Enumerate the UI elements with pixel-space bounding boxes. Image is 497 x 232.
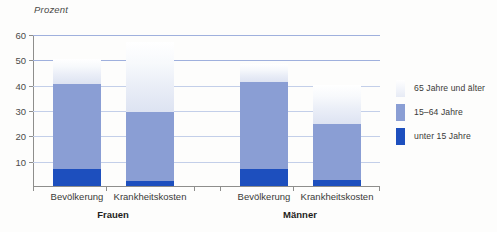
y-tick-label-40: 40 bbox=[15, 80, 26, 91]
x-tick-4 bbox=[293, 187, 294, 191]
tick-mark-20 bbox=[29, 136, 33, 137]
bar-segment-under15 bbox=[53, 169, 101, 186]
category-label-maenner-krankheitskosten: Krankheitskosten bbox=[301, 191, 374, 202]
tick-mark-30 bbox=[29, 111, 33, 112]
tick-mark-50 bbox=[29, 60, 33, 61]
legend-label-under15: unter 15 Jahre bbox=[414, 131, 471, 141]
bar-segment-15to64 bbox=[53, 84, 101, 169]
category-label-frauen-krankheitskosten: Krankheitskosten bbox=[114, 191, 187, 202]
y-tick-label-20: 20 bbox=[15, 131, 26, 142]
bar-frauen-bevoelkerung[interactable] bbox=[53, 59, 101, 186]
category-label-maenner-bevoelkerung: Bevölkerung bbox=[238, 191, 291, 202]
bar-segment-under15 bbox=[313, 180, 361, 186]
legend-swatch-under15-icon bbox=[396, 128, 405, 145]
bar-segment-under15 bbox=[240, 169, 288, 186]
bar-segment-65plus bbox=[126, 42, 174, 112]
plot-area: 60 50 40 30 20 10 bbox=[33, 35, 380, 187]
y-tick-label-60: 60 bbox=[15, 30, 26, 41]
legend-swatch-65plus-icon bbox=[396, 80, 405, 97]
gridline-60: 60 bbox=[33, 35, 380, 36]
bar-segment-65plus bbox=[313, 85, 361, 125]
bar-segment-65plus bbox=[240, 64, 288, 82]
legend-swatch-15to64-icon bbox=[396, 104, 405, 121]
group-label-frauen: Frauen bbox=[97, 209, 129, 220]
y-tick-label-30: 30 bbox=[15, 106, 26, 117]
legend-item-under15[interactable]: unter 15 Jahre bbox=[396, 124, 496, 148]
legend-label-65plus: 65 Jahre und älter bbox=[414, 83, 485, 93]
stacked-bar-chart: Prozent 60 50 40 30 20 10 bbox=[0, 0, 497, 232]
category-label-frauen-bevoelkerung: Bevölkerung bbox=[51, 191, 104, 202]
bar-segment-15to64 bbox=[313, 124, 361, 180]
bar-segment-65plus bbox=[53, 59, 101, 84]
legend-label-15to64: 15–64 Jahre bbox=[414, 107, 463, 117]
tick-mark-40 bbox=[29, 86, 33, 87]
bar-maenner-krankheitskosten[interactable] bbox=[313, 85, 361, 186]
x-tick-0 bbox=[33, 187, 34, 191]
legend-item-15to64[interactable]: 15–64 Jahre bbox=[396, 100, 496, 124]
group-label-maenner: Männer bbox=[283, 209, 317, 220]
bar-segment-under15 bbox=[126, 181, 174, 186]
x-tick-3 bbox=[220, 187, 221, 191]
bar-frauen-krankheitskosten[interactable] bbox=[126, 42, 174, 186]
bar-maenner-bevoelkerung[interactable] bbox=[240, 64, 288, 186]
chart-legend: 65 Jahre und älter 15–64 Jahre unter 15 … bbox=[396, 76, 496, 148]
tick-mark-10 bbox=[29, 162, 33, 163]
legend-item-65plus[interactable]: 65 Jahre und älter bbox=[396, 76, 496, 100]
y-tick-label-10: 10 bbox=[15, 156, 26, 167]
y-axis-title: Prozent bbox=[34, 4, 68, 15]
tick-mark-60 bbox=[29, 35, 33, 36]
x-tick-1 bbox=[106, 187, 107, 191]
y-tick-label-50: 50 bbox=[15, 55, 26, 66]
bar-segment-15to64 bbox=[126, 112, 174, 181]
bar-segment-15to64 bbox=[240, 82, 288, 169]
x-tick-2 bbox=[194, 187, 195, 191]
x-tick-5 bbox=[379, 187, 380, 191]
x-axis-line bbox=[33, 186, 380, 187]
